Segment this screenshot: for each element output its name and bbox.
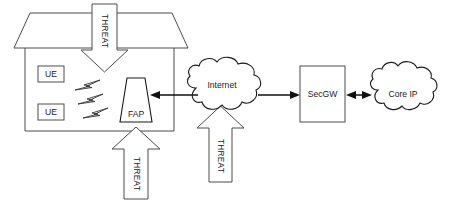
threat-arrow-internet: THREAT bbox=[197, 106, 244, 182]
lightning-bolt-icon-2 bbox=[78, 94, 103, 104]
threat-arrow-fap: THREAT bbox=[112, 127, 160, 199]
arrowhead-left-icon bbox=[150, 91, 160, 99]
arrowhead-bi-left-icon bbox=[346, 91, 356, 99]
arrowhead-right-icon bbox=[290, 91, 300, 99]
network-threat-diagram: UE UE FAP THREAT THREAT bbox=[0, 0, 455, 203]
threat-arrow-roof: THREAT bbox=[81, 4, 128, 72]
secgw-node: SecGW bbox=[300, 66, 345, 122]
ue-device-2: UE bbox=[38, 104, 64, 120]
internet-cloud: Internet bbox=[188, 57, 261, 109]
ue-label-2: UE bbox=[45, 107, 57, 117]
core-ip-cloud-shape bbox=[371, 62, 437, 110]
lightning-bolt-icon-3 bbox=[83, 108, 108, 118]
internet-label: Internet bbox=[207, 80, 237, 90]
threat-arrow-fap-label: THREAT bbox=[132, 157, 141, 191]
threat-arrow-roof-label: THREAT bbox=[100, 14, 109, 48]
lightning-bolt-icon-1 bbox=[75, 80, 100, 90]
fap-label: FAP bbox=[128, 109, 145, 119]
wireless-signal-group bbox=[75, 80, 108, 118]
threat-arrow-internet-label: THREAT bbox=[216, 139, 225, 173]
ue-device-1: UE bbox=[38, 66, 64, 82]
diagram-canvas: UE UE FAP THREAT THREAT bbox=[0, 0, 455, 203]
ue-label-1: UE bbox=[45, 69, 57, 79]
fap-node: FAP bbox=[120, 78, 152, 122]
core-ip-cloud: Core IP bbox=[371, 62, 437, 110]
core-ip-label: Core IP bbox=[388, 89, 417, 99]
connection-internet-to-secgw bbox=[258, 91, 300, 99]
connection-secgw-to-core-ip bbox=[346, 91, 372, 99]
arrowhead-bi-right-icon bbox=[362, 91, 372, 99]
secgw-label: SecGW bbox=[308, 89, 338, 99]
